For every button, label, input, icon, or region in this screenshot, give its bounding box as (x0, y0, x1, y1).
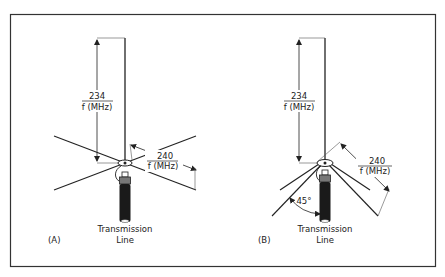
coax-cable (120, 184, 131, 222)
radial-length-denominator: f (MHz) (360, 166, 391, 176)
vertical-length-denominator: f (MHz) (284, 102, 315, 112)
panel-b: 234 f (MHz) 240 f (MHz) 45° Transmission… (258, 38, 394, 245)
antenna-diagram: 234 f (MHz) 240 f (MHz) Transmission Lin… (0, 0, 445, 277)
vertical-length-numerator: 234 (291, 91, 307, 101)
coax-braid (320, 175, 331, 182)
panel-label: (A) (48, 235, 60, 245)
radial-length-numerator: 240 (157, 151, 173, 161)
coax-cable (320, 182, 331, 222)
feed-label-line2: Line (116, 235, 134, 245)
radial-length-denominator: f (MHz) (148, 161, 179, 171)
droop-angle-label: 45° (296, 196, 311, 206)
feed-label-line2: Line (316, 235, 334, 245)
feed-label-line1: Transmission (97, 224, 153, 234)
vertical-length-numerator: 234 (89, 91, 105, 101)
panel-label: (B) (258, 235, 270, 245)
radial (280, 164, 319, 190)
coax-braid (120, 177, 131, 184)
vertical-length-denominator: f (MHz) (82, 102, 113, 112)
radial-length-numerator: 240 (369, 156, 385, 166)
radial (272, 165, 321, 216)
figure-border (11, 15, 436, 267)
panel-a: 234 f (MHz) 240 f (MHz) Transmission Lin… (48, 38, 196, 245)
feed-label-line1: Transmission (297, 224, 353, 234)
